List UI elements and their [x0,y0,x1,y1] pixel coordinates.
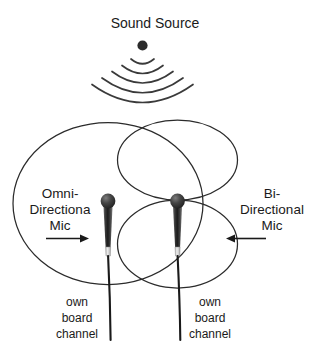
omni-channel-line-1: own [66,295,88,309]
omni-mic-label: Omni- Directiona Mic [30,186,91,233]
microphone-pickup-pattern-diagram: Sound Source [0,0,315,361]
diagram-title: Sound Source [111,15,200,31]
bi-channel-line-3: channel [189,327,231,341]
omni-directional-microphone [101,194,116,340]
bi-pointer-arrow-left-icon [226,235,266,243]
omni-label-line-3: Mic [50,218,71,233]
bi-label-line-1: Bi- [264,186,281,201]
sound-wave-arc-4 [102,78,183,93]
mic-body-omni [103,205,112,247]
bi-channel-line-1: own [199,295,221,309]
bi-mic-label: Bi- Directional Mic [240,186,304,233]
omni-cable-channel-label: own board channel [56,295,98,341]
omni-channel-line-3: channel [56,327,98,341]
mic-head-bi [170,194,185,209]
omni-pointer-arrow-right-icon [46,235,89,243]
bi-label-line-2: Directional [240,202,304,217]
bi-pickup-pattern-upper-lobe [118,120,238,200]
mic-band-omni [106,247,111,256]
bi-cable-channel-label: own board channel [189,295,231,341]
sound-wave-arcs [92,59,193,103]
bi-label-line-3: Mic [262,218,283,233]
diagram-canvas: Sound Source [0,0,315,361]
bi-channel-line-2: board [195,311,226,325]
omni-label-line-2: Directiona [30,202,91,217]
mic-cable-omni [108,256,111,340]
sound-wave-arc-1 [131,59,154,64]
bi-directional-microphone [170,194,185,340]
sound-wave-arc-2 [122,66,163,74]
omni-label-line-1: Omni- [42,186,79,201]
sound-source-dot [137,40,147,50]
mic-cable-bi [178,256,181,340]
omni-channel-line-2: board [62,311,93,325]
mic-band-bi [175,247,180,256]
mic-body-bi [173,205,182,247]
mic-head-omni [101,194,116,209]
